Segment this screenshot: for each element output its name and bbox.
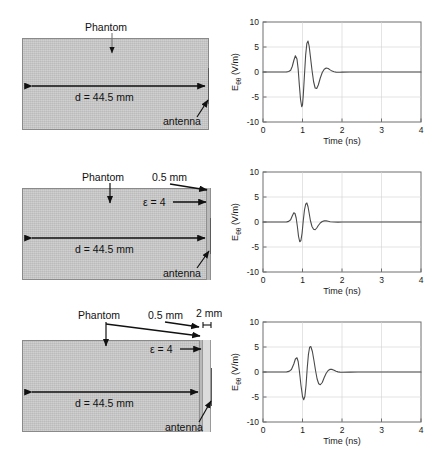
plot-panel-2: 10 5 0 -5 -10 0 1 2 3 4 Time (ns) Eθθ (V… [225, 150, 433, 301]
ytick-5: 5 [254, 342, 259, 352]
xtick-3: 3 [379, 425, 384, 435]
xtick-1: 1 [300, 425, 305, 435]
y-axis-label-2: Eθθ (V/m) [230, 203, 242, 241]
ytick-10: 10 [250, 317, 260, 327]
xtick-4: 4 [419, 275, 424, 285]
x-axis-label-2: Time (ns) [323, 286, 361, 296]
svg-text:Eθθ (V/m): Eθθ (V/m) [230, 203, 242, 241]
xtick-0: 0 [261, 425, 266, 435]
plot-panel-3: 10 5 0 -5 -10 0 1 2 3 4 Time (ns) Eθθ (V… [225, 300, 433, 451]
annotation-overlay-1 [0, 0, 225, 151]
ytick-10: 10 [250, 17, 260, 27]
ytick-5: 5 [254, 192, 259, 202]
y-axis-units: (V/m) [230, 53, 240, 78]
ytick-10: 10 [250, 167, 260, 177]
schematic-panel-2: Phantom 0.5 mm ε = 4 d = 44.5 mm antenna [0, 150, 225, 301]
ytick-neg10: -10 [247, 117, 260, 127]
xtick-3: 3 [379, 125, 384, 135]
figure-root: Phantom d = 44.5 mm antenna [0, 0, 433, 451]
y-axis-label-3: Eθθ (V/m) [230, 353, 242, 391]
panel-2: Phantom 0.5 mm ε = 4 d = 44.5 mm antenna [0, 150, 433, 300]
xtick-0: 0 [261, 275, 266, 285]
ytick-neg5: -5 [251, 392, 259, 402]
ytick-neg5: -5 [251, 92, 259, 102]
y-axis-label-1: Eθθ (V/m) [230, 53, 242, 91]
ytick-neg5: -5 [251, 242, 259, 252]
annotation-overlay-3 [0, 300, 225, 451]
ytick-neg10: -10 [247, 267, 260, 277]
xtick-2: 2 [340, 275, 345, 285]
x-axis-label-1: Time (ns) [323, 136, 361, 146]
xtick-2: 2 [340, 125, 345, 135]
schematic-panel-3: Phantom 0.5 mm 2 mm ε = 4 d = 44.5 mm an… [0, 300, 225, 451]
svg-text:Eθθ (V/m): Eθθ (V/m) [230, 53, 242, 91]
panel-3: Phantom 0.5 mm 2 mm ε = 4 d = 44.5 mm an… [0, 300, 433, 450]
xtick-0: 0 [261, 125, 266, 135]
ytick-0: 0 [254, 367, 259, 377]
schematic-panel-1: Phantom d = 44.5 mm antenna [0, 0, 225, 151]
xtick-2: 2 [340, 425, 345, 435]
xtick-1: 1 [300, 125, 305, 135]
ytick-0: 0 [254, 67, 259, 77]
xtick-1: 1 [300, 275, 305, 285]
annotation-overlay-2 [0, 150, 225, 301]
plot-panel-1: 10 5 0 -5 -10 0 1 2 3 4 Time (ns) Eθθ (V… [225, 0, 433, 151]
ytick-neg10: -10 [247, 417, 260, 427]
x-axis-label-3: Time (ns) [323, 436, 361, 446]
ytick-0: 0 [254, 217, 259, 227]
waveform-chart-2: 10 5 0 -5 -10 0 1 2 3 4 Time (ns) Eθθ (V… [225, 150, 433, 301]
ytick-5: 5 [254, 42, 259, 52]
panel-1: Phantom d = 44.5 mm antenna [0, 0, 433, 150]
y-axis-units: (V/m) [230, 353, 240, 378]
xtick-3: 3 [379, 275, 384, 285]
xtick-4: 4 [419, 425, 424, 435]
y-axis-units: (V/m) [230, 203, 240, 228]
waveform-chart-1: 10 5 0 -5 -10 0 1 2 3 4 Time (ns) Eθθ (V… [225, 0, 433, 151]
xtick-4: 4 [419, 125, 424, 135]
svg-text:Eθθ (V/m): Eθθ (V/m) [230, 353, 242, 391]
waveform-chart-3: 10 5 0 -5 -10 0 1 2 3 4 Time (ns) Eθθ (V… [225, 300, 433, 451]
